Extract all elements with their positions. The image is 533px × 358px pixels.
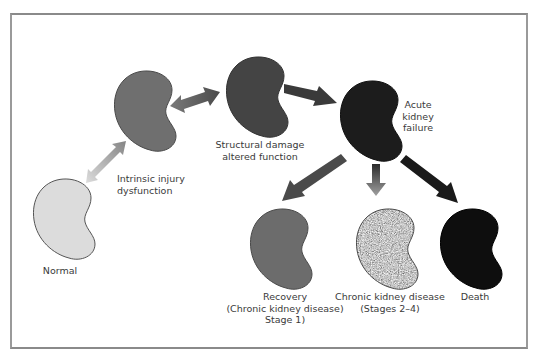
kidney-ckd [356, 209, 418, 289]
arrow-akf-ckd [366, 164, 386, 196]
label-death: Death [450, 291, 500, 303]
arrow-intrinsic-structural [170, 87, 220, 113]
label-acute-kidney-failure: Acute kidney failure [398, 99, 438, 134]
label-line: altered function [210, 151, 310, 163]
label-normal: Normal [30, 265, 90, 277]
label-line: Acute [398, 99, 438, 111]
label-line: failure [398, 122, 438, 134]
label-intrinsic-injury: Intrinsic injury dysfunction [117, 173, 185, 196]
label-line: (Stages 2–4) [335, 303, 445, 315]
label-line: Structural damage [210, 139, 310, 151]
label-line: Normal [30, 265, 90, 277]
label-structural-damage: Structural damage altered function [210, 139, 310, 162]
kidney-normal [33, 179, 95, 259]
label-line: Chronic kidney disease [335, 291, 445, 303]
label-line: Recovery [225, 291, 345, 303]
label-line: kidney [398, 111, 438, 123]
kidney-structural-damage [226, 57, 288, 137]
kidney-acute-failure [340, 81, 402, 161]
label-line: Intrinsic injury [117, 173, 185, 185]
label-line: Death [450, 291, 500, 303]
arrow-akf-death [400, 155, 458, 203]
label-line: Stage 1) [225, 314, 345, 326]
label-line: (Chronic kidney disease) [225, 303, 345, 315]
kidney-recovery [250, 209, 312, 289]
arrow-structural-akf [284, 84, 337, 106]
label-line: dysfunction [117, 185, 185, 197]
kidney-intrinsic-injury [114, 71, 176, 151]
kidney-death [440, 209, 502, 289]
label-ckd: Chronic kidney disease (Stages 2–4) [335, 291, 445, 314]
label-recovery: Recovery (Chronic kidney disease) Stage … [225, 291, 345, 326]
